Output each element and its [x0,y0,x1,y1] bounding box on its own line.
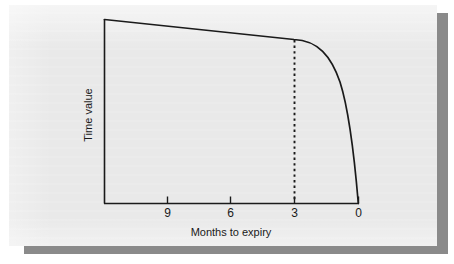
time-value-decay-chart: 9 6 3 0 Months to expiry Time value [0,0,454,264]
x-tick-label-9: 9 [164,206,171,220]
time-value-curve [105,20,359,204]
x-tick-label-6: 6 [227,206,234,220]
figure-screenshot: 9 6 3 0 Months to expiry Time value [0,0,454,264]
x-axis-ticks [168,197,359,204]
x-axis-title: Months to expiry [191,226,272,238]
y-axis-title: Time value [82,88,94,141]
x-tick-label-0: 0 [355,206,362,220]
x-tick-label-3: 3 [291,206,298,220]
